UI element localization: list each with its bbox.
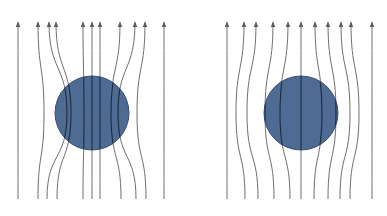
field-line <box>350 22 359 199</box>
field-line <box>236 22 245 199</box>
field-line <box>137 22 146 199</box>
field-line <box>38 22 44 199</box>
field-line-diagram <box>0 0 387 216</box>
left-panel-concentrated-field <box>18 22 164 199</box>
field-line <box>247 22 258 199</box>
right-panel-expelled-field <box>227 22 372 199</box>
field-line <box>340 22 350 199</box>
diagram-canvas <box>0 0 387 216</box>
